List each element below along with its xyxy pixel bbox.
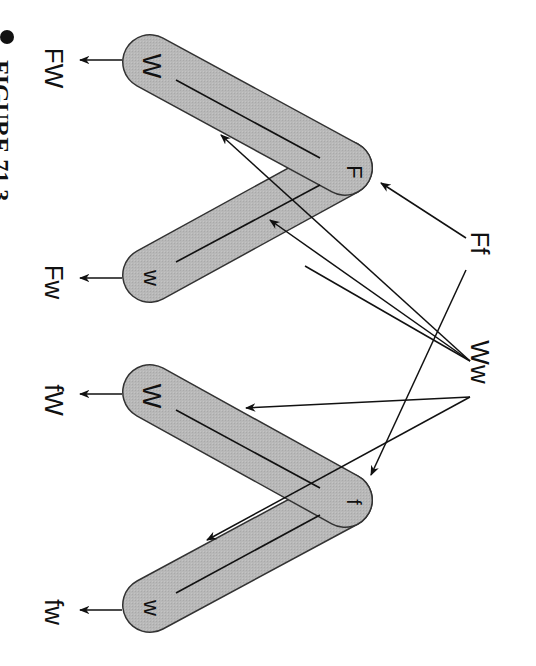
allele-W-bottom: W [137, 384, 167, 409]
parent-label-Ff: Ff [465, 231, 495, 255]
arrows-from-Ff [371, 183, 466, 475]
allele-w-top: w [139, 269, 164, 286]
allele-W-top: W [137, 54, 167, 79]
allele-F: F [342, 165, 367, 178]
genetics-diagram: F W w f W w Ff Ww FW Fw [0, 0, 536, 666]
arrow-Ff-to-F [381, 183, 466, 238]
gamete-FW: FW [39, 48, 69, 89]
parent-label-Ww: Ww [465, 340, 495, 384]
allele-w-bottom: w [139, 599, 164, 616]
chromosome-pair-F: F W w [137, 54, 367, 286]
gamete-fW: fW [39, 384, 69, 416]
caption-text: FIGURE 71.3 [0, 60, 14, 201]
figure-caption: FIGURE 71.3 [0, 30, 14, 201]
chromosome-pair-f: f W w [137, 384, 365, 616]
allele-f: f [343, 499, 365, 505]
gamete-fw: fw [39, 599, 69, 625]
gametes: FW Fw fW fw [39, 48, 122, 625]
bullet-icon [0, 30, 14, 44]
gamete-Fw: Fw [39, 265, 69, 300]
